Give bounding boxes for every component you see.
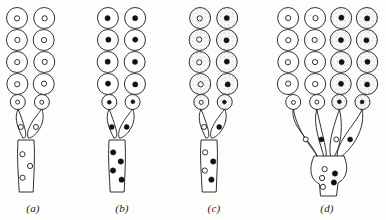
nucleus-filled bbox=[107, 100, 111, 104]
stalk-dot-filled bbox=[110, 168, 115, 173]
stalk-dot-open bbox=[202, 168, 207, 173]
nucleus-open bbox=[199, 100, 203, 104]
nucleus-filled bbox=[224, 59, 229, 64]
nucleus-open bbox=[312, 59, 317, 64]
stalk-dot-open bbox=[27, 163, 32, 168]
cell-chain-diagram bbox=[0, 0, 386, 220]
nucleus-open bbox=[202, 124, 207, 129]
nucleus-filled bbox=[339, 59, 344, 64]
nucleus-filled bbox=[109, 124, 114, 129]
nucleus-filled bbox=[224, 15, 229, 20]
stalk-dot-open bbox=[320, 184, 325, 189]
nucleus-open bbox=[15, 37, 20, 42]
nucleus-filled bbox=[105, 16, 110, 21]
nucleus-filled bbox=[338, 38, 343, 43]
nucleus-open bbox=[40, 100, 44, 104]
nucleus-open bbox=[42, 59, 47, 64]
nucleus-open bbox=[286, 38, 291, 43]
stalk-dot-filled bbox=[209, 177, 214, 182]
nucleus-filled bbox=[222, 100, 226, 104]
stalk-base bbox=[311, 156, 347, 196]
nucleus-open bbox=[303, 137, 308, 142]
neck-cell bbox=[293, 109, 318, 158]
nucleus-open bbox=[42, 16, 47, 21]
stalk-dot-filled bbox=[332, 171, 337, 176]
nucleus-filled bbox=[337, 100, 341, 104]
nucleus-filled bbox=[338, 81, 343, 86]
nucleus-open bbox=[15, 59, 20, 64]
nucleus-open bbox=[291, 100, 295, 104]
stalk-dot-open bbox=[322, 167, 327, 172]
neck-cell bbox=[107, 109, 117, 138]
nucleus-open bbox=[41, 37, 46, 42]
panel-label-c: (c) bbox=[208, 202, 221, 214]
stalk-dot-open bbox=[20, 175, 25, 180]
stalk-dot-open bbox=[20, 152, 25, 157]
nucleus-filled bbox=[124, 124, 129, 129]
nucleus-filled bbox=[360, 100, 364, 104]
nucleus-open bbox=[197, 60, 202, 65]
nucleus-filled bbox=[319, 137, 324, 142]
nucleus-open bbox=[286, 81, 291, 86]
neck-cell bbox=[199, 109, 209, 138]
neck-cell bbox=[211, 109, 227, 138]
nucleus-filled bbox=[106, 37, 111, 42]
nucleus-filled bbox=[224, 38, 229, 43]
neck-cell bbox=[316, 109, 327, 158]
nucleus-filled bbox=[133, 37, 138, 42]
nucleus-open bbox=[197, 37, 202, 42]
stalk-body bbox=[201, 140, 218, 192]
nucleus-filled bbox=[131, 100, 135, 104]
nucleus-filled bbox=[365, 59, 370, 64]
nucleus-filled bbox=[365, 16, 370, 21]
neck-cell bbox=[119, 109, 135, 138]
nucleus-open bbox=[334, 137, 339, 142]
nucleus-filled bbox=[133, 82, 138, 87]
nucleus-filled bbox=[348, 137, 353, 142]
nucleus-filled bbox=[365, 82, 370, 87]
nucleus-open bbox=[197, 16, 202, 21]
stalk-dot-filled bbox=[110, 150, 115, 155]
nucleus-open bbox=[313, 16, 318, 21]
nucleus-filled bbox=[225, 82, 230, 87]
panel-label-b: (b) bbox=[115, 202, 128, 214]
stalk-dot-filled bbox=[118, 159, 123, 164]
nucleus-filled bbox=[105, 81, 110, 86]
nucleus-open bbox=[15, 82, 20, 87]
nucleus-open bbox=[14, 16, 19, 21]
stalk-body bbox=[109, 140, 126, 192]
nucleus-open bbox=[285, 60, 290, 65]
nucleus-open bbox=[286, 15, 291, 20]
nucleus-filled bbox=[105, 59, 110, 64]
figure-canvas: (a)(b)(c)(d) bbox=[0, 0, 386, 220]
figure-layer bbox=[6, 8, 377, 197]
nucleus-open bbox=[18, 124, 23, 129]
stalk-dot-filled bbox=[211, 159, 216, 164]
nucleus-open bbox=[33, 124, 38, 129]
stalk-dot-filled bbox=[119, 177, 124, 182]
stalk-dot-open bbox=[319, 175, 324, 180]
panel-label-a: (a) bbox=[26, 202, 39, 214]
neck-cell bbox=[28, 109, 44, 138]
nucleus-filled bbox=[217, 124, 222, 129]
nucleus-filled bbox=[364, 38, 369, 43]
nucleus-open bbox=[313, 81, 318, 86]
nucleus-filled bbox=[133, 16, 138, 21]
nucleus-open bbox=[312, 37, 317, 42]
neck-cell bbox=[16, 109, 26, 138]
nucleus-filled bbox=[132, 59, 137, 64]
nucleus-open bbox=[315, 100, 319, 104]
nucleus-filled bbox=[339, 15, 344, 20]
nucleus-open bbox=[41, 81, 46, 86]
stalk-dot-open bbox=[203, 150, 208, 155]
nucleus-open bbox=[16, 100, 20, 104]
stalk-dot-filled bbox=[331, 180, 336, 185]
nucleus-open bbox=[198, 82, 203, 87]
panel-label-d: (d) bbox=[320, 202, 333, 214]
